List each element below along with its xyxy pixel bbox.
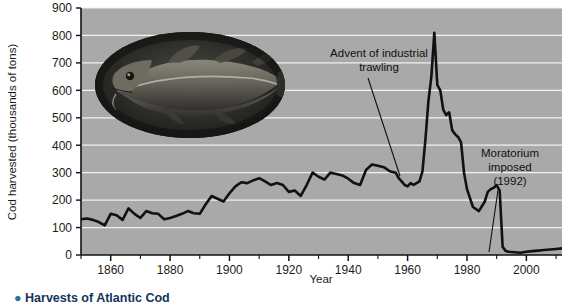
- annotation-moratorium-line-1: Moratorium: [481, 147, 539, 159]
- y-axis-label: Cod harvested (thousands of tons): [6, 44, 18, 221]
- annotation-advent-line-1: Advent of industrial: [330, 47, 428, 59]
- annotation-moratorium-line-2: imposed: [488, 161, 531, 173]
- x-tick-label: 1880: [157, 263, 184, 277]
- x-tick-label: 1960: [394, 263, 421, 277]
- caption-text: Harvests of Atlantic Cod: [25, 291, 170, 304]
- x-tick-label: 1920: [275, 263, 302, 277]
- y-tick-label: 800: [52, 29, 72, 43]
- annotation-advent-line-2: trawling: [359, 61, 399, 73]
- annotation-moratorium-line-3: (1992): [493, 175, 526, 187]
- caption-bullet: ●: [14, 291, 22, 304]
- x-tick-label: 1940: [335, 263, 362, 277]
- y-tick-label: 0: [65, 248, 72, 262]
- chart-svg: 0100200300400500600700800900 18601880190…: [0, 0, 575, 304]
- x-tick-label: 1900: [216, 263, 243, 277]
- y-tick-label: 500: [52, 111, 72, 125]
- y-tick-label: 900: [52, 1, 72, 15]
- x-tick-label: 1860: [97, 263, 124, 277]
- y-tick-label: 400: [52, 139, 72, 153]
- y-tick-label: 700: [52, 56, 72, 70]
- y-tick-label: 200: [52, 193, 72, 207]
- y-tick-label: 100: [52, 221, 72, 235]
- x-tick-label: 2000: [513, 263, 540, 277]
- x-tick-label: 1980: [454, 263, 481, 277]
- y-tick-group: 0100200300400500600700800900: [52, 1, 81, 262]
- y-tick-label: 600: [52, 84, 72, 98]
- x-axis-label: Year: [309, 273, 332, 285]
- figure-caption: ● Harvests of Atlantic Cod: [14, 288, 170, 304]
- cod-harvest-figure: 0100200300400500600700800900 18601880190…: [0, 0, 575, 304]
- y-tick-label: 300: [52, 166, 72, 180]
